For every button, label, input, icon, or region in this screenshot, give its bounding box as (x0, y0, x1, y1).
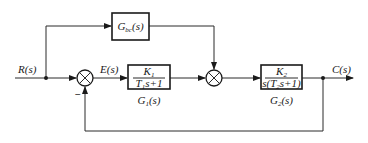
block-g2: K2 s(T2s+1) G2(s) (261, 65, 302, 108)
output-signal-label: C(s) (332, 63, 351, 76)
summing-junction-1 (77, 70, 93, 86)
block-gbc: Gbc(s) (112, 13, 149, 40)
output-branch-point (321, 76, 325, 80)
summing-junction-2 (206, 70, 222, 86)
block-g1: K1 T1s+1 G1(s) (128, 65, 170, 108)
g1-name-label: G1(s) (137, 94, 160, 108)
input-branch-point (44, 76, 48, 80)
g2-denominator: s(T2s+1) (262, 77, 301, 91)
error-signal-label: E(s) (99, 63, 119, 76)
block-diagram: Gbc(s) K1 T1s+1 G1(s) K2 s(T2s+1) G2(s) … (0, 0, 368, 143)
feedback-minus-sign: − (75, 89, 81, 100)
g2-name-label: G2(s) (270, 94, 293, 108)
g1-denominator: T1s+1 (136, 77, 163, 91)
input-signal-label: R(s) (17, 63, 37, 76)
feedforward-line-out (149, 26, 214, 69)
